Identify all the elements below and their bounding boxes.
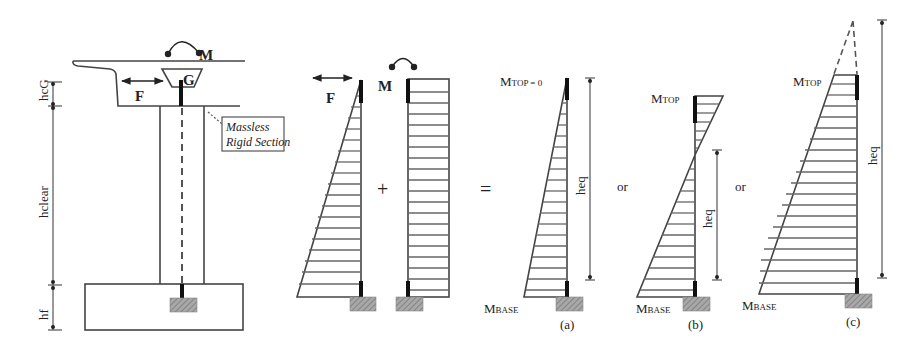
- case-c-diagram: MTOP heq MBASE (c): [742, 20, 887, 329]
- dim-hf: hf: [36, 309, 51, 321]
- cap-beam-outline: [73, 61, 245, 106]
- case-a-diagram: MTOP = 0 heq MBASE (a): [484, 74, 595, 332]
- footing: [85, 284, 243, 330]
- or-separator-1: or: [617, 179, 629, 194]
- case-a-caption: (a): [560, 317, 574, 332]
- case-b-top-label: MTOP: [651, 91, 679, 106]
- moment-diagram-hatching: [408, 92, 449, 290]
- ground-support-icon: [350, 297, 376, 311]
- or-separator-2: or: [735, 179, 747, 194]
- case-a-heq-label: heq: [573, 176, 588, 195]
- case-b-caption: (b): [688, 317, 703, 332]
- force-moment-diagram: F: [297, 78, 376, 311]
- ground-support-icon: [170, 298, 197, 312]
- force-component-label: F: [326, 90, 335, 106]
- dim-hclear: hclear: [36, 186, 51, 218]
- case-c-heq-label: heq: [865, 146, 880, 165]
- ground-support-icon: [396, 297, 423, 311]
- plus-sign: +: [377, 178, 388, 200]
- moment-arc-icon: [168, 42, 199, 54]
- leader-line: [208, 112, 222, 124]
- case-a-top-label: MTOP = 0: [500, 74, 543, 89]
- moment-component-label: M: [378, 78, 392, 94]
- centroid-label: G: [183, 72, 195, 88]
- moment-label: M: [199, 47, 213, 63]
- note-line-2: Rigid Section: [225, 135, 290, 149]
- ground-support-icon: [556, 297, 583, 311]
- moment-arc-icon: [392, 59, 414, 68]
- ground-support-icon: [845, 294, 872, 308]
- case-a-base-label: MBASE: [484, 301, 519, 316]
- force-diagram-hatching: [299, 96, 361, 284]
- pier-elevation: F G M Massless Rigid Section hcG hclear …: [36, 42, 290, 330]
- equals-sign: =: [480, 178, 491, 200]
- extrapolation-dashed-lines: [834, 21, 857, 74]
- case-b-base-label: MBASE: [636, 301, 671, 316]
- case-c-top-label: MTOP: [793, 74, 821, 89]
- note-line-1: Massless: [225, 120, 270, 134]
- dim-hcg: hcG: [36, 79, 51, 101]
- moment-moment-diagram: M: [378, 59, 449, 312]
- ground-support-icon: [683, 297, 710, 311]
- case-c-caption: (c): [846, 314, 860, 329]
- moment-diagram-figure: F G M Massless Rigid Section hcG hclear …: [0, 0, 924, 349]
- force-label: F: [135, 88, 144, 104]
- case-b-diagram: MTOP heq MBASE (b): [636, 91, 723, 332]
- case-c-base-label: MBASE: [742, 298, 777, 313]
- case-b-heq-label: heq: [700, 209, 715, 228]
